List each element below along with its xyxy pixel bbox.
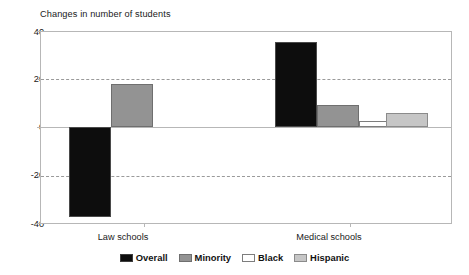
- legend-label-overall: Overall: [136, 252, 168, 263]
- y-tick-mark-20: [37, 79, 41, 80]
- legend-item-black: Black: [242, 252, 283, 263]
- gridline-20: [41, 79, 451, 80]
- y-axis-tick-label-neg40: -40: [10, 220, 44, 229]
- legend-item-minority: Minority: [179, 252, 231, 263]
- legend-swatch-hispanic: [294, 254, 307, 262]
- bar-medical-hispanic: [386, 113, 428, 128]
- bar-law-minority: [111, 84, 153, 128]
- y-tick-mark-neg20: [37, 176, 41, 177]
- legend-item-hispanic: Hispanic: [294, 252, 349, 263]
- bar-medical-minority: [317, 105, 359, 127]
- x-axis-label-law-schools: Law schools: [68, 232, 178, 242]
- plot-area: [40, 31, 452, 224]
- legend-swatch-overall: [120, 254, 133, 262]
- legend-label-minority: Minority: [195, 252, 231, 263]
- y-tick-mark-40: [37, 31, 41, 32]
- x-tick-mark-law: [144, 223, 145, 227]
- legend-label-black: Black: [258, 252, 283, 263]
- chart-title: Changes in number of students: [40, 9, 171, 19]
- x-tick-mark-medical: [350, 223, 351, 227]
- bar-chart: Changes in number of students 40 20 0 -2…: [0, 0, 469, 275]
- y-axis-tick-label-40: 40: [10, 28, 44, 37]
- bar-medical-overall: [275, 42, 317, 127]
- x-axis-label-medical-schools: Medical schools: [274, 232, 384, 242]
- bar-law-overall: [69, 127, 111, 217]
- legend-item-overall: Overall: [120, 252, 168, 263]
- legend-swatch-black: [242, 254, 255, 262]
- legend-label-hispanic: Hispanic: [310, 252, 349, 263]
- y-tick-mark-0: [37, 127, 41, 128]
- y-tick-mark-neg40: [37, 223, 41, 224]
- chart-legend: Overall Minority Black Hispanic: [0, 252, 469, 263]
- legend-swatch-minority: [179, 254, 192, 262]
